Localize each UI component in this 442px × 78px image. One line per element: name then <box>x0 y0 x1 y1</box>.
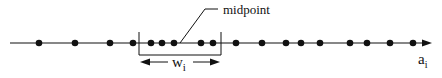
data-point <box>347 40 354 47</box>
data-point <box>130 40 137 47</box>
data-point <box>259 40 266 47</box>
data-point <box>410 40 417 47</box>
window-diagram: wi midpoint ai <box>0 0 442 78</box>
data-point <box>387 40 394 47</box>
data-point <box>198 40 205 47</box>
data-point <box>107 40 114 47</box>
midpoint-label: midpoint <box>223 2 270 17</box>
data-point <box>283 40 290 47</box>
data-point <box>171 40 178 47</box>
window-width-label: wi <box>172 54 186 73</box>
data-point <box>298 40 305 47</box>
data-point <box>148 40 155 47</box>
arrowhead-right-icon <box>210 59 220 66</box>
data-point <box>36 40 43 47</box>
data-point <box>317 40 324 47</box>
arrowhead-left-icon <box>140 59 150 66</box>
axis-label: ai <box>418 51 428 70</box>
data-point <box>210 40 217 47</box>
midpoint-leader <box>180 9 218 43</box>
data-point <box>233 40 240 47</box>
data-point <box>364 40 371 47</box>
data-point <box>159 40 166 47</box>
data-point <box>72 40 79 47</box>
axis-arrowhead <box>422 40 432 47</box>
